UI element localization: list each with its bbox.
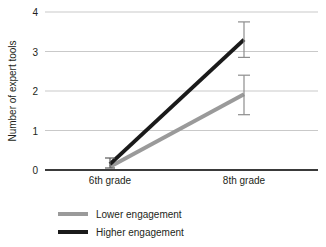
legend: Lower engagement Higher engagement [58,209,184,238]
x-category-label-6th-grade: 6th grade [89,175,132,186]
y-axis-title: Number of expert tools [7,40,18,141]
error-bar-higher-engagement-8th-grade [238,22,250,58]
y-tick-label-2: 2 [32,86,38,97]
y-tick-label-1: 1 [32,126,38,137]
series-line-higher-engagement [110,40,244,165]
legend-label-higher-engagement: Higher engagement [96,227,184,238]
chart-figure: 4 3 2 1 0 Number of expert tools 6th gra… [0,0,326,247]
y-tick-label-4: 4 [32,7,38,18]
x-category-label-8th-grade: 8th grade [223,175,266,186]
y-tick-label-3: 3 [32,47,38,58]
gridlines [45,12,318,131]
legend-label-lower-engagement: Lower engagement [96,209,182,220]
line-chart: 4 3 2 1 0 Number of expert tools 6th gra… [0,0,326,247]
y-tick-label-0: 0 [32,165,38,176]
